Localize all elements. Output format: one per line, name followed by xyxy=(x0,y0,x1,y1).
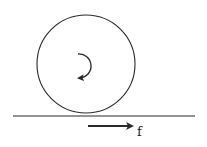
wheel xyxy=(37,15,135,113)
force-label: f xyxy=(137,124,143,139)
rotation-arrow-icon xyxy=(78,54,91,78)
wheel-friction-diagram: f xyxy=(0,0,207,147)
